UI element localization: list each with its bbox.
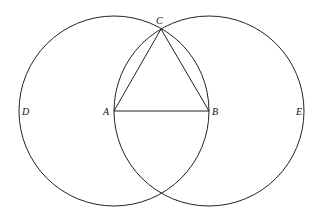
segment-bc [161, 29, 209, 111]
label-c: C [156, 15, 163, 26]
segment-ac [114, 29, 161, 111]
euclid-diagram: C A B D E [0, 0, 319, 215]
label-e: E [295, 106, 302, 117]
label-d: D [21, 106, 30, 117]
label-a: A [102, 106, 110, 117]
label-b: B [212, 106, 218, 117]
